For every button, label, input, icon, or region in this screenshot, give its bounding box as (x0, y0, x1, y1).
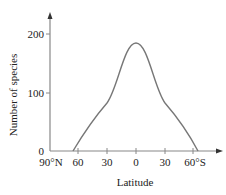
y-tick-label-200: 200 (28, 28, 45, 40)
y-tick-label-100: 100 (28, 87, 45, 99)
species-curve (73, 43, 198, 151)
y-axis-arrow-icon (48, 12, 53, 19)
y-axis-label: Number of species (7, 54, 19, 136)
x-tick-label-30n: 30 (102, 156, 114, 168)
x-tick-label-90n: 90°N (39, 156, 62, 168)
x-tick-label-0: 0 (133, 156, 139, 168)
chart: 200 100 0 90°N 60 30 0 30 60°S Latitude … (0, 0, 226, 195)
x-tick-label-30s: 30 (160, 156, 172, 168)
x-tick-label-60s: 60°S (184, 156, 206, 168)
x-axis-arrow-icon (216, 149, 223, 154)
x-tick-label-60n: 60 (73, 156, 85, 168)
x-axis-label: Latitude (117, 176, 154, 188)
